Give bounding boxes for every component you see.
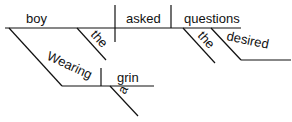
word-verb: asked [126, 11, 161, 26]
word-object-modifier: desired [225, 28, 270, 52]
word-subject-article: the [88, 27, 111, 50]
word-object: questions [184, 11, 240, 26]
word-participle: Wearing [45, 48, 95, 82]
word-participle-object: grin [117, 70, 139, 85]
word-subject: boy [26, 11, 47, 26]
sentence-diagram: boy asked questions the Wearing grin a t… [0, 0, 292, 122]
